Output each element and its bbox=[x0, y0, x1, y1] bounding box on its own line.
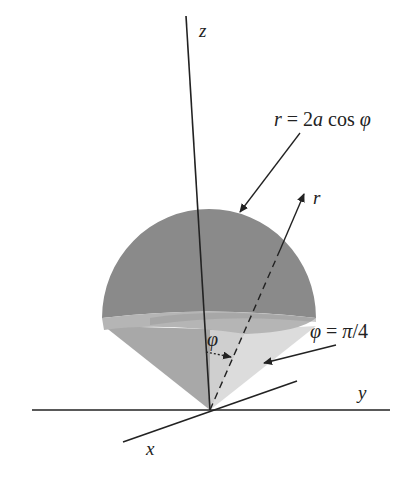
y-axis-label: y bbox=[356, 382, 367, 403]
z-axis-label: z bbox=[198, 20, 207, 41]
sphere-equation-label: r = 2a cos φ bbox=[274, 108, 371, 131]
sphere-cap bbox=[102, 209, 316, 334]
phi-label: φ bbox=[207, 328, 218, 351]
sphere-pointer-arrow bbox=[240, 133, 300, 212]
radius-arrow bbox=[280, 194, 304, 250]
x-axis-label: x bbox=[145, 438, 155, 459]
spherical-coordinates-diagram: z y x r φ r = 2a cos φ φ = π/4 bbox=[0, 0, 418, 485]
radius-label: r bbox=[313, 187, 321, 208]
cone-equation-label: φ = π/4 bbox=[310, 320, 368, 343]
